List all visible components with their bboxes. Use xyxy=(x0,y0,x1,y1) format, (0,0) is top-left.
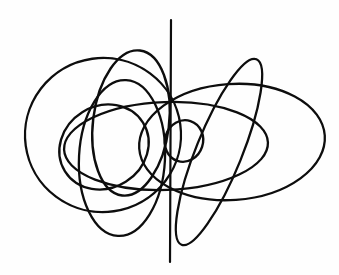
line-drawing-canvas: Abstract overlapping-ellipse line drawin… xyxy=(0,0,339,275)
figure-container: Abstract overlapping-ellipse line drawin… xyxy=(0,0,339,275)
line-group xyxy=(170,20,171,262)
shape-vertical-axis-line xyxy=(170,20,171,262)
